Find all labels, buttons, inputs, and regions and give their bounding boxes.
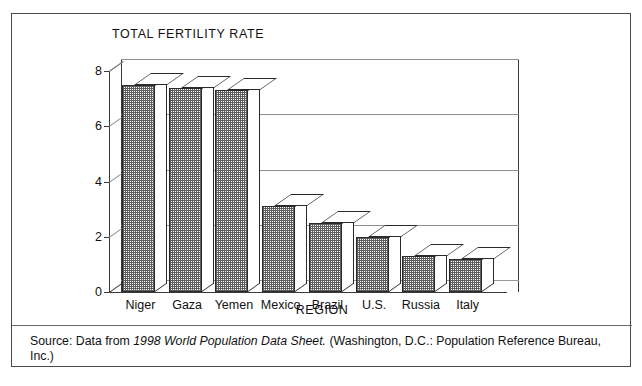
bar-side-face	[202, 79, 214, 292]
category-axis-line	[109, 292, 507, 293]
source-title: 1998 World Population Data Sheet.	[133, 334, 326, 348]
chart-title: TOTAL FERTILITY RATE	[112, 27, 264, 41]
bar	[215, 90, 248, 292]
value-axis-tick-mark	[104, 292, 109, 293]
source-prefix: Source: Data from	[30, 334, 133, 348]
value-axis-tick-label: 0	[95, 285, 102, 299]
value-axis-tick-label: 6	[95, 119, 102, 133]
value-axis-tick-mark	[104, 126, 109, 127]
value-axis-tick-label: 4	[95, 175, 102, 189]
bar-front-face	[356, 237, 389, 292]
bar-side-face	[342, 215, 354, 292]
section-divider	[12, 325, 632, 326]
bar	[402, 256, 435, 292]
chart-region: TOTAL FERTILITY RATE 02468 NigerGazaYeme…	[12, 14, 632, 314]
bar	[356, 237, 389, 292]
figure-panel: TOTAL FERTILITY RATE 02468 NigerGazaYeme…	[11, 13, 631, 367]
bar-front-face	[262, 206, 295, 292]
bar-front-face	[169, 88, 202, 292]
bar	[262, 206, 295, 292]
x-axis-title: REGION	[12, 303, 632, 317]
bar	[309, 223, 342, 292]
bar-side-face	[248, 82, 260, 292]
bar	[169, 88, 202, 292]
bar-front-face	[449, 259, 482, 292]
bar-front-face	[122, 85, 155, 292]
bar-side-face	[155, 76, 167, 292]
gridline	[121, 59, 519, 60]
bar-side-face	[295, 198, 307, 292]
bar-front-face	[402, 256, 435, 292]
value-axis-tick-label: 2	[95, 230, 102, 244]
bar-side-face	[389, 228, 401, 292]
bar-front-face	[215, 90, 248, 292]
source-note: Source: Data from 1998 World Population …	[30, 334, 614, 364]
bar	[122, 85, 155, 292]
bar	[449, 259, 482, 292]
plot-area: 02468 NigerGazaYemenMexicoBrazilU.S.Russ…	[109, 59, 519, 292]
value-axis-tick-label: 8	[95, 64, 102, 78]
bar-front-face	[309, 223, 342, 292]
